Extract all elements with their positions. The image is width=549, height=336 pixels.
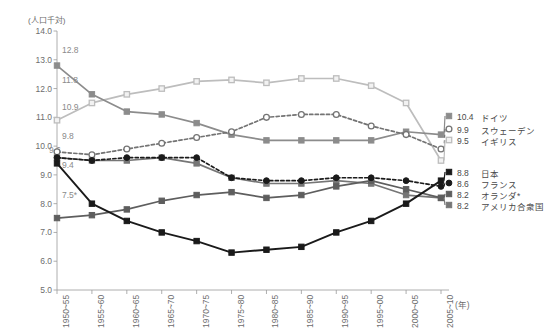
series-日本	[54, 161, 443, 256]
legend-marker	[446, 126, 452, 132]
legend-marker	[446, 169, 451, 174]
legend-marker	[446, 202, 451, 207]
plot-area	[0, 0, 549, 336]
legend-leader-line	[444, 198, 445, 205]
series-イギリス	[54, 76, 443, 163]
x-axis-unit-label: (年)	[455, 298, 470, 310]
chart-axes	[54, 31, 450, 294]
series-アメリカ合衆国	[54, 155, 443, 201]
legend-marker	[446, 180, 452, 186]
series-ドイツ	[54, 63, 443, 143]
legend-leader-line	[444, 172, 445, 181]
legend-marker	[446, 113, 451, 118]
legend-marker	[446, 137, 451, 142]
legend-leader-line	[444, 194, 445, 198]
death-rate-line-chart: (人口千対) 14.013.012.011.010.09.08.07.06.05…	[0, 0, 549, 336]
series-スウェーデン	[54, 112, 444, 158]
legend-marker	[446, 191, 451, 196]
